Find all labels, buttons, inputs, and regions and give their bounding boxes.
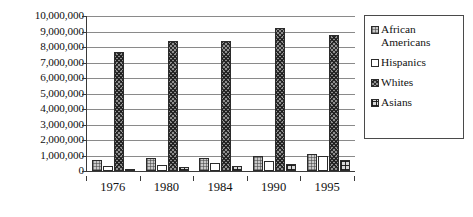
bar-hispanics-1984[interactable]	[210, 163, 220, 171]
y-tick-label: 0	[0, 165, 84, 176]
y-tick-label: 3,000,000	[0, 119, 84, 130]
bar-asians-1976[interactable]	[125, 169, 135, 171]
legend-item-asians[interactable]: Asians	[371, 96, 459, 109]
x-tick-label: 1984	[193, 176, 247, 200]
y-tick-label: 7,000,000	[0, 57, 84, 68]
bar-group-1984	[194, 16, 248, 171]
bar-asians-1984[interactable]	[232, 166, 242, 171]
legend-item-label: Hispanics	[381, 56, 426, 69]
y-tick-label: 4,000,000	[0, 103, 84, 114]
legend-item-hispanics[interactable]: Hispanics	[371, 56, 459, 69]
x-tick-label: 1995	[300, 176, 354, 200]
bar-group-1990	[248, 16, 302, 171]
bar-asians-1995[interactable]	[340, 160, 350, 171]
y-axis: 01,000,0002,000,0003,000,0004,000,0005,0…	[0, 0, 84, 217]
bar-african-americans-1976[interactable]	[92, 160, 102, 171]
x-category-separator	[86, 176, 87, 181]
x-tick-label: 1980	[140, 176, 194, 200]
bar-whites-1976[interactable]	[114, 52, 124, 171]
legend-swatch-icon	[371, 26, 379, 34]
bar-whites-1980[interactable]	[168, 41, 178, 171]
x-tick-label: 1976	[86, 176, 140, 200]
y-tick-label: 6,000,000	[0, 72, 84, 83]
bar-hispanics-1980[interactable]	[157, 165, 167, 172]
bars-layer	[87, 16, 355, 171]
bar-group-1995	[301, 16, 355, 171]
legend-item-label: Whites	[381, 76, 413, 89]
x-category-separator	[247, 176, 248, 181]
x-category-separator	[300, 176, 301, 181]
bar-hispanics-1990[interactable]	[264, 161, 274, 171]
legend-item-african-americans[interactable]: African Americans	[371, 23, 459, 49]
legend-swatch-icon	[371, 79, 379, 87]
y-tick-label: 5,000,000	[0, 88, 84, 99]
bar-whites-1995[interactable]	[329, 35, 339, 171]
legend-item-whites[interactable]: Whites	[371, 76, 459, 89]
bar-group-1980	[141, 16, 195, 171]
x-tick-label: 1990	[247, 176, 301, 200]
y-tick-label: 1,000,000	[0, 150, 84, 161]
y-tick-label: 10,000,000	[0, 10, 84, 21]
x-category-separator	[140, 176, 141, 181]
x-category-separator	[354, 176, 355, 181]
legend-swatch-icon	[371, 59, 379, 67]
legend-item-label: African Americans	[381, 23, 459, 49]
y-tick-label: 2,000,000	[0, 134, 84, 145]
bar-african-americans-1995[interactable]	[307, 154, 317, 171]
bar-hispanics-1995[interactable]	[318, 156, 328, 172]
bar-african-americans-1980[interactable]	[146, 158, 156, 171]
x-axis: 19761980198419901995	[86, 176, 354, 200]
bar-group-1976	[87, 16, 141, 171]
bar-whites-1984[interactable]	[221, 41, 231, 172]
bar-hispanics-1976[interactable]	[103, 166, 113, 171]
bar-asians-1990[interactable]	[286, 164, 296, 171]
bar-african-americans-1990[interactable]	[253, 156, 263, 171]
plot-area	[86, 16, 355, 172]
bar-whites-1990[interactable]	[275, 28, 285, 171]
legend-swatch-icon	[371, 99, 379, 107]
y-tick-label: 8,000,000	[0, 41, 84, 52]
bar-african-americans-1984[interactable]	[199, 158, 209, 171]
bar-asians-1980[interactable]	[179, 167, 189, 171]
y-tick-label: 9,000,000	[0, 26, 84, 37]
chart-legend: African AmericansHispanicsWhitesAsians	[364, 15, 464, 139]
x-category-separator	[193, 176, 194, 181]
legend-item-label: Asians	[381, 96, 412, 109]
bar-chart-figure: 01,000,0002,000,0003,000,0004,000,0005,0…	[0, 0, 473, 217]
